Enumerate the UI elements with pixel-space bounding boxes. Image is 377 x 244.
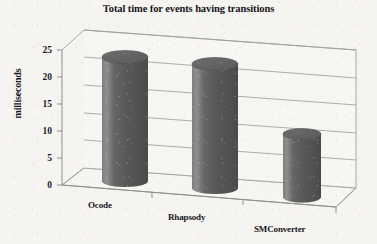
bar-smconverter[interactable]	[283, 129, 321, 203]
chart-container: Total time for events having transitions…	[0, 0, 377, 244]
y-tick-15: 15	[28, 99, 52, 109]
axis-depth-edge	[62, 30, 84, 185]
y-tick-25: 25	[28, 45, 52, 55]
y-tick-20: 20	[28, 72, 52, 82]
y-tick-0: 0	[28, 180, 52, 190]
bar-ocode[interactable]	[102, 51, 148, 188]
chart-plot-svg	[0, 0, 377, 244]
x-label-smconverter: SMConverter	[254, 224, 305, 234]
y-tick-5: 5	[28, 153, 52, 163]
x-label-ocode: Ocode	[88, 200, 112, 210]
y-axis	[57, 50, 62, 185]
bar-rhapsody[interactable]	[192, 58, 238, 195]
x-label-rhapsody: Rhapsody	[168, 212, 205, 222]
y-tick-10: 10	[28, 126, 52, 136]
